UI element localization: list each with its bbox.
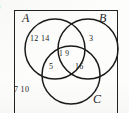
region-members-b-only: 3: [89, 34, 93, 43]
region-members-a-only: 12 14: [30, 34, 50, 43]
set-label-b: B: [99, 12, 106, 24]
venn-diagram-figure: ) A B C 12 14 3 1 9 5 16 7 10: [0, 0, 129, 113]
region-members-a-b-c: 1 9: [59, 49, 69, 58]
region-members-a-c: 5: [49, 62, 53, 71]
region-members-outside: 7 10: [14, 85, 29, 94]
region-members-b-c: 16: [75, 62, 84, 71]
set-label-c: C: [93, 93, 101, 105]
set-label-a: A: [22, 12, 29, 24]
